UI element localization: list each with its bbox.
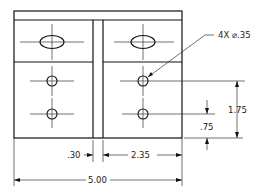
ellipse-right xyxy=(114,24,174,60)
ellipse-left xyxy=(20,24,84,60)
hole-left-lower xyxy=(30,98,74,128)
dim-vertical xyxy=(184,81,243,150)
hole-callout-text: 4X ⌀.35 xyxy=(218,30,251,40)
dim-0-75: .75 xyxy=(200,122,214,132)
dim-5-00: 5.00 xyxy=(88,175,107,185)
dim-2-35: 2.35 xyxy=(131,150,150,160)
hole-left-upper xyxy=(30,66,74,96)
dim-1-75: 1.75 xyxy=(228,105,247,115)
dim-0-30: .30 xyxy=(67,150,81,160)
part-outline xyxy=(14,11,182,138)
hole-callout-leader xyxy=(148,35,214,77)
technical-drawing: 4X ⌀.35 1.75 .75 .30 2.35 5.00 xyxy=(0,0,263,196)
